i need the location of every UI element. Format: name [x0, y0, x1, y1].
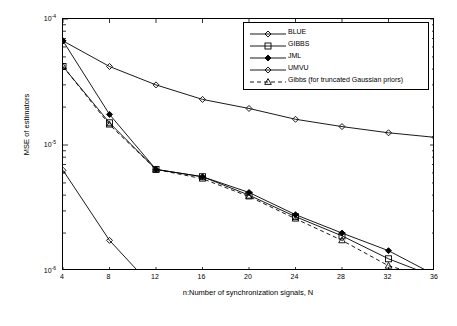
x-tick-label: 36 [419, 273, 449, 280]
y-tick-label: 10-6 [22, 265, 56, 274]
chart-figure: 4812162024283236 10-410-510-6 n:Number o… [0, 0, 457, 326]
x-tick-label: 8 [94, 273, 124, 280]
x-tick-label: 24 [280, 273, 310, 280]
x-tick-label: 32 [373, 273, 403, 280]
legend-label: GIBBS [288, 38, 309, 50]
legend-marker-icon [248, 50, 288, 62]
legend-label: Gibbs (for truncated Gaussian priors) [288, 74, 403, 86]
legend-item: GIBBS [248, 38, 424, 50]
legend-marker-icon [248, 74, 288, 86]
legend-item: BLUE [248, 26, 424, 38]
x-axis-label: n:Number of synchronization signals, N [62, 288, 434, 297]
legend-label: BLUE [288, 26, 306, 38]
x-tick-label: 28 [326, 273, 356, 280]
y-axis-label: MSE of estimators [22, 55, 31, 195]
x-tick-label: 12 [140, 273, 170, 280]
legend-marker-icon [248, 26, 288, 38]
legend-marker-icon [248, 62, 288, 74]
legend-marker-icon [248, 38, 288, 50]
legend-label: JML [288, 50, 301, 62]
chart-legend: BLUEGIBBSJMLUMVUGibbs (for truncated Gau… [243, 22, 429, 90]
x-tick-label: 16 [187, 273, 217, 280]
legend-item: JML [248, 50, 424, 62]
legend-item: UMVU [248, 62, 424, 74]
x-tick-label: 20 [233, 273, 263, 280]
legend-label: UMVU [288, 62, 309, 74]
y-tick-label: 10-4 [22, 13, 56, 22]
legend-item: Gibbs (for truncated Gaussian priors) [248, 74, 424, 86]
